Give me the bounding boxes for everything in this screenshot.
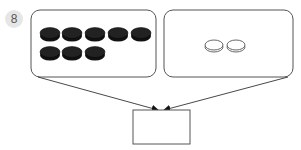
coin-icon <box>227 40 245 52</box>
coin-icon <box>108 28 128 42</box>
arrow-right <box>164 77 288 110</box>
coin-icon <box>62 28 82 42</box>
coin-icon <box>205 40 223 52</box>
coin-icon <box>131 28 151 42</box>
coin-icon <box>40 28 60 42</box>
coin-icon <box>85 47 105 61</box>
answer-box[interactable] <box>133 110 190 144</box>
counting-diagram <box>0 0 301 150</box>
coin-icon <box>85 28 105 42</box>
coin-icon <box>62 47 82 61</box>
left-group-box <box>31 10 156 77</box>
coin-icon <box>40 47 60 61</box>
arrow-left <box>38 77 158 110</box>
